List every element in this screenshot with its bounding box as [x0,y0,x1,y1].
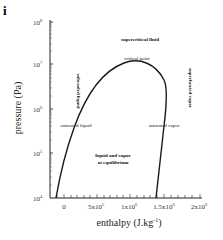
subcooled-liquid-label: subcooled liquid [76,74,81,109]
phase-diagram-chart: i 104 105 106 107 108 0 5x105 1x106 1.5x… [0,0,223,240]
svg-text:1x106: 1x106 [121,202,138,211]
saturation-curve [56,61,166,198]
x-axis-label: enthalpy (J.kg-1) [97,217,162,229]
y-tick-labels: 104 105 106 107 108 [33,18,43,203]
liquid-vapor-label-line1: liquid and vapor [95,153,131,158]
saturated-liquid-label: saturated liquid [61,123,92,128]
svg-text:2x106: 2x106 [191,202,208,211]
svg-text:107: 107 [33,60,43,69]
svg-text:106: 106 [33,105,43,114]
x-tick-labels: 0 5x105 1x106 1.5x106 2x106 [62,202,208,211]
svg-text:104: 104 [33,194,43,203]
svg-text:1.5x106: 1.5x106 [153,202,175,211]
critical-point-label: critical point [124,56,150,61]
y-axis-label: pressure (Pa) [12,82,24,134]
svg-text:0: 0 [62,203,66,211]
svg-text:105: 105 [33,149,43,158]
saturated-vapor-label: saturated vapor [149,123,180,128]
superheated-vapor-label: superheated vapor [188,68,193,109]
svg-text:5x105: 5x105 [88,202,105,211]
panel-label: i [3,3,7,18]
liquid-vapor-label-line2: at equilibrium [98,160,130,165]
supercritical-fluid-label: supercritical fluid [121,37,159,42]
svg-text:108: 108 [33,18,43,27]
x-ticks [57,194,200,198]
